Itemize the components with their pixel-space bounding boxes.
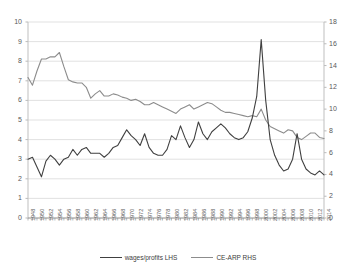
right-axis-tick-label: 14	[329, 62, 349, 70]
x-axis-tick-label: 1968	[120, 209, 126, 221]
x-axis-tick-label: 1984	[192, 209, 198, 221]
left-axis-tick-label: 1	[4, 194, 22, 202]
x-axis-tick-label: 1966	[111, 209, 117, 221]
x-axis-tick-label: 1978	[165, 209, 171, 221]
x-axis-tick-label: 2000	[263, 209, 269, 221]
x-axis-tick-label: 2002	[272, 209, 278, 221]
left-axis-tick-label: 5	[4, 116, 22, 124]
left-axis-tick-label: 8	[4, 57, 22, 65]
x-axis-tick-label: 1994	[237, 209, 243, 221]
left-axis-tick-label: 9	[4, 38, 22, 46]
x-axis-tick-label: 1986	[201, 209, 207, 221]
x-axis-tick-label: 1982	[183, 209, 189, 221]
legend-label: wages/profits LHS	[125, 254, 178, 261]
x-axis-tick-label: 1950	[39, 209, 45, 221]
right-axis-tick-label: 8	[329, 127, 349, 135]
x-axis-tick-label: 1988	[210, 209, 216, 221]
x-axis-tick-label: 1960	[84, 209, 90, 221]
right-axis-tick-label: 10	[329, 105, 349, 113]
x-axis-tick-label: 1954	[57, 209, 63, 221]
right-axis-tick-label: 18	[329, 18, 349, 26]
chart-plot-area	[0, 0, 356, 271]
left-axis-tick-label: 3	[4, 155, 22, 163]
right-axis-tick-label: 12	[329, 83, 349, 91]
right-axis-tick-label: 16	[329, 40, 349, 48]
x-axis-tick-label: 1980	[174, 209, 180, 221]
chart-legend: wages/profits LHSCE-ARP RHS	[0, 249, 356, 265]
gridlines	[28, 22, 324, 198]
x-axis-tick-label: 1948	[30, 209, 36, 221]
left-axis-tick-label: 4	[4, 136, 22, 144]
x-axis-tick-label: 1996	[245, 209, 251, 221]
x-axis-tick-label: 1956	[66, 209, 72, 221]
legend-label: CE-ARP RHS	[216, 254, 256, 261]
x-axis-tick-label: 1964	[102, 209, 108, 221]
x-axis-tick-label: 1962	[93, 209, 99, 221]
series-line-wages-profits	[28, 40, 324, 177]
x-axis-tick-label: 1958	[75, 209, 81, 221]
right-axis-tick-label: 2	[329, 192, 349, 200]
x-axis-tick-label: 2012	[317, 209, 323, 221]
x-axis-tick-label: 1952	[48, 209, 54, 221]
legend-item[interactable]: wages/profits LHS	[100, 254, 178, 261]
x-axis-tick-label: 1970	[129, 209, 135, 221]
x-axis-tick-label: 1972	[138, 209, 144, 221]
x-axis-tick-label: 2010	[308, 209, 314, 221]
x-axis-tick-label: 1974	[147, 209, 153, 221]
left-axis-tick-label: 6	[4, 96, 22, 104]
legend-line-swatch	[100, 257, 122, 258]
legend-line-swatch	[191, 257, 213, 258]
left-axis-tick-label: 2	[4, 175, 22, 183]
right-axis-tick-label: 0	[329, 214, 349, 222]
left-axis-tick-label: 7	[4, 77, 22, 85]
right-axis-tick-label: 6	[329, 149, 349, 157]
right-axis-tick-label: 4	[329, 170, 349, 178]
x-axis-tick-label: 1992	[228, 209, 234, 221]
x-axis-ticks	[26, 22, 327, 221]
x-axis-tick-label: 1990	[219, 209, 225, 221]
left-axis-tick-label: 0	[4, 214, 22, 222]
x-axis-tick-label: 1976	[156, 209, 162, 221]
x-axis-tick-label: 1998	[254, 209, 260, 221]
left-axis-tick-label: 10	[4, 18, 22, 26]
x-axis-tick-label: 2004	[281, 209, 287, 221]
series-line-ce-arp	[28, 52, 324, 139]
legend-item[interactable]: CE-ARP RHS	[191, 254, 256, 261]
x-axis-tick-label: 2014	[326, 209, 332, 221]
x-axis-tick-label: 2008	[299, 209, 305, 221]
x-axis-tick-label: 2006	[290, 209, 296, 221]
chart-container: 012345678910 024681012141618 19481950195…	[0, 0, 356, 271]
